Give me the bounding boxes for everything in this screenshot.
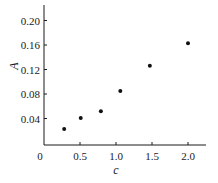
x-tick-label: 2.0	[181, 150, 195, 162]
y-tick-label: 0.20	[21, 15, 41, 27]
x-tick-label: 0	[37, 150, 43, 162]
y-axis-title: A	[7, 62, 21, 71]
data-point	[79, 116, 83, 120]
x-tick-label: 1.5	[145, 150, 159, 162]
data-point	[148, 64, 152, 68]
data-point	[186, 41, 190, 45]
x-axis-title: c	[113, 163, 119, 177]
x-tick-label: 0.5	[73, 150, 87, 162]
scatter-chart: 0.040.080.120.160.20 A 00.51.01.52.0 c	[0, 0, 218, 183]
data-point	[118, 89, 122, 93]
data-point	[99, 109, 103, 113]
y-tick-label: 0.12	[21, 64, 40, 76]
x-tick-label: 1.0	[109, 150, 123, 162]
data-point	[62, 127, 66, 131]
y-tick-label: 0.08	[21, 88, 41, 100]
y-tick-label: 0.16	[21, 39, 41, 51]
y-axis: 0.040.080.120.160.20 A	[7, 5, 47, 145]
y-tick-label: 0.04	[21, 113, 41, 125]
x-axis: 00.51.01.52.0 c	[37, 142, 206, 177]
data-points	[62, 41, 190, 131]
